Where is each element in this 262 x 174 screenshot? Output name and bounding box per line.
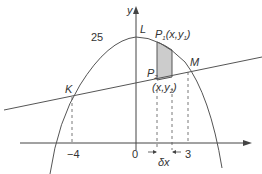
shaded-strip: [157, 42, 172, 80]
line-km: [4, 57, 262, 110]
curve-value-label: 25: [91, 31, 103, 43]
delta-x-label: δx: [158, 156, 170, 168]
x-tick-0: 0: [132, 148, 138, 160]
delta-x-arrowhead-left-icon: [153, 150, 157, 154]
point-p1-label: P1(x,y1): [155, 28, 191, 41]
point-m-label: M: [190, 56, 200, 68]
point-k-label: K: [65, 83, 73, 95]
x-axis-arrow-icon: [243, 140, 252, 146]
y-axis-label: y: [126, 4, 134, 16]
y-axis-arrow-icon: [133, 6, 139, 14]
diagram-canvas: y L 25 P1(x,y1) P2 (x,y2) K M −4 0 3 δx: [0, 0, 262, 174]
vertex-label-l: L: [140, 23, 146, 35]
x-tick-3: 3: [185, 148, 191, 160]
x-tick-neg4: −4: [67, 148, 80, 160]
delta-x-arrowhead-right-icon: [172, 150, 176, 154]
point-p2-coords-label: (x,y2): [152, 81, 177, 94]
